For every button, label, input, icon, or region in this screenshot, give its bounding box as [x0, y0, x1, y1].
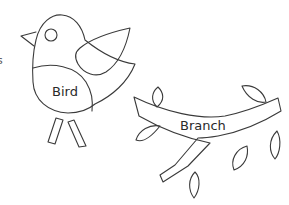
- bird-drawing: Bird: [21, 15, 135, 147]
- branch-label: Branch: [180, 118, 226, 133]
- leaf-bottom: [190, 172, 199, 198]
- edge-text-fragment: s: [0, 54, 3, 67]
- leaf-left: [136, 126, 160, 141]
- bird-leg-right: [68, 120, 86, 147]
- bird-beak: [21, 32, 36, 46]
- branch-band: [134, 97, 281, 182]
- leaf-top-left: [153, 87, 163, 107]
- bird-eye: [45, 29, 57, 41]
- bird-label: Bird: [52, 84, 78, 99]
- leaf-right-lower: [270, 131, 280, 159]
- illustration-canvas: s Bird Branch: [0, 0, 289, 205]
- leaf-top-right: [242, 86, 266, 103]
- leaf-middle: [233, 146, 248, 170]
- branch-drawing: Branch: [134, 86, 281, 198]
- bird-leg-left: [48, 118, 63, 144]
